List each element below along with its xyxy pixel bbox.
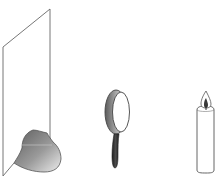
optics-diagram bbox=[0, 0, 222, 182]
handle bbox=[112, 134, 119, 168]
candle bbox=[197, 91, 214, 173]
flame-icon bbox=[201, 91, 211, 110]
projected-image bbox=[14, 130, 61, 172]
magnifying-glass bbox=[105, 90, 130, 168]
